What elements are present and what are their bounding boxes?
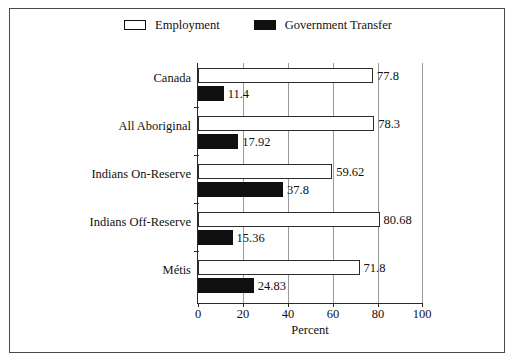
bar-value-employment-indians-off-reserve: 80.68 bbox=[384, 213, 412, 226]
bar-employment-all-aboriginal: 78.3 bbox=[198, 116, 374, 131]
x-axis-tick-label-80: 80 bbox=[372, 308, 385, 321]
bar-group-indians-on-reserve: Indians On-Reserve 59.62 37.8 bbox=[198, 161, 422, 205]
legend-entry-government-transfer: Government Transfer bbox=[254, 19, 392, 32]
x-axis-tick-label-0: 0 bbox=[195, 308, 201, 321]
bar-government-transfer-metis: 24.83 bbox=[198, 278, 254, 293]
bar-value-government-transfer-metis: 24.83 bbox=[258, 279, 286, 292]
plot-area: Canada 77.8 11.4 All Aboriginal 78.3 17.… bbox=[197, 63, 422, 304]
x-axis-tick-label-40: 40 bbox=[282, 308, 295, 321]
bar-value-government-transfer-indians-off-reserve: 15.36 bbox=[237, 231, 265, 244]
x-axis-tick-label-60: 60 bbox=[327, 308, 340, 321]
legend-entry-employment: Employment bbox=[124, 19, 220, 32]
bar-value-government-transfer-indians-on-reserve: 37.8 bbox=[287, 183, 309, 196]
bar-value-employment-metis: 71.8 bbox=[364, 261, 386, 274]
bar-employment-indians-on-reserve: 59.62 bbox=[198, 164, 332, 179]
chart-figure: Employment Government Transfer Canada 77… bbox=[9, 8, 505, 353]
bar-group-canada: Canada 77.8 11.4 bbox=[198, 65, 422, 109]
legend-swatch-government-transfer bbox=[254, 20, 276, 30]
bar-government-transfer-canada: 11.4 bbox=[198, 86, 224, 101]
bar-group-all-aboriginal: All Aboriginal 78.3 17.92 bbox=[198, 113, 422, 157]
x-axis-tick-label-100: 100 bbox=[413, 308, 432, 321]
category-label-metis: Métis bbox=[163, 264, 191, 277]
category-label-indians-off-reserve: Indians Off-Reserve bbox=[90, 216, 191, 229]
bar-value-employment-all-aboriginal: 78.3 bbox=[378, 117, 400, 130]
bar-employment-metis: 71.8 bbox=[198, 260, 360, 275]
bar-government-transfer-indians-off-reserve: 15.36 bbox=[198, 230, 233, 245]
category-label-canada: Canada bbox=[154, 72, 191, 85]
bar-government-transfer-all-aboriginal: 17.92 bbox=[198, 134, 238, 149]
legend-label-government-transfer: Government Transfer bbox=[285, 19, 392, 32]
legend-label-employment: Employment bbox=[155, 19, 220, 32]
bar-group-indians-off-reserve: Indians Off-Reserve 80.68 15.36 bbox=[198, 209, 422, 253]
bar-value-government-transfer-canada: 11.4 bbox=[228, 87, 249, 100]
category-label-all-aboriginal: All Aboriginal bbox=[118, 120, 191, 133]
bar-value-employment-canada: 77.8 bbox=[377, 69, 399, 82]
bar-employment-indians-off-reserve: 80.68 bbox=[198, 212, 380, 227]
x-axis-title: Percent bbox=[291, 324, 328, 337]
bar-group-metis: Métis 71.8 24.83 bbox=[198, 257, 422, 301]
bar-government-transfer-indians-on-reserve: 37.8 bbox=[198, 182, 283, 197]
bar-value-employment-indians-on-reserve: 59.62 bbox=[336, 165, 364, 178]
x-axis-tick-label-20: 20 bbox=[237, 308, 250, 321]
bar-employment-canada: 77.8 bbox=[198, 68, 373, 83]
bar-value-government-transfer-all-aboriginal: 17.92 bbox=[242, 135, 270, 148]
chart-legend: Employment Government Transfer bbox=[10, 19, 506, 32]
category-label-indians-on-reserve: Indians On-Reserve bbox=[91, 168, 191, 181]
legend-swatch-employment bbox=[124, 20, 146, 30]
gridline-100 bbox=[422, 63, 423, 303]
